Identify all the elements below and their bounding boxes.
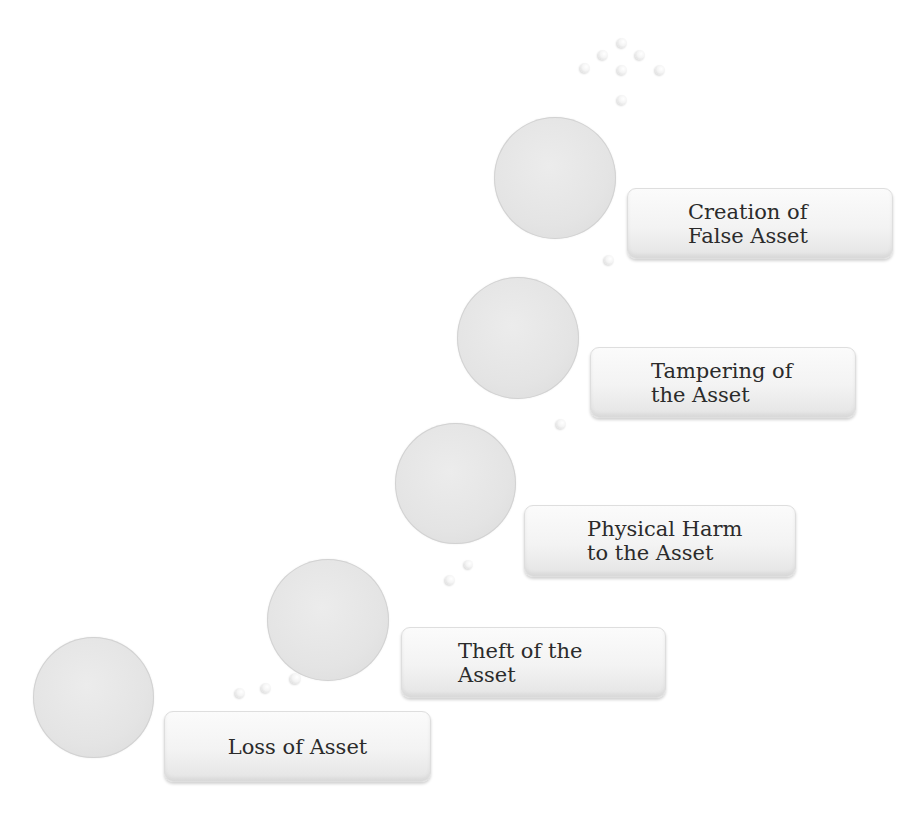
step-2-box: Theft of the Asset [401, 627, 666, 698]
step-5-circle [494, 117, 616, 239]
connector-bubble-3 [290, 673, 301, 684]
connector-bubble-4 [445, 575, 455, 585]
step-2-label: Theft of the Asset [458, 639, 582, 687]
step-1-box: Loss of Asset [164, 711, 431, 782]
connector-bubble-5 [464, 560, 473, 569]
cluster-bubble-5 [617, 65, 627, 75]
cluster-bubble-2 [598, 50, 608, 60]
connector-bubble-6 [556, 419, 566, 429]
step-1-label: Loss of Asset [228, 735, 368, 759]
connector-bubble-7 [604, 255, 614, 265]
connector-bubble-1 [235, 688, 245, 698]
step-3-circle [395, 423, 516, 544]
connector-bubble-2 [261, 683, 271, 693]
cluster-bubble-7 [617, 95, 627, 105]
step-5-box: Creation of False Asset [627, 188, 893, 259]
step-2-circle [267, 559, 389, 681]
cluster-bubble-6 [655, 65, 665, 75]
step-5-label: Creation of False Asset [688, 200, 808, 248]
step-4-box: Tampering of the Asset [590, 347, 856, 418]
step-3-label: Physical Harm to the Asset [587, 517, 742, 565]
cluster-bubble-4 [580, 63, 590, 73]
cluster-bubble-1 [617, 38, 627, 48]
step-1-circle [33, 637, 154, 758]
step-4-label: Tampering of the Asset [651, 359, 793, 407]
step-3-box: Physical Harm to the Asset [524, 505, 796, 577]
cluster-bubble-3 [635, 50, 645, 60]
step-4-circle [457, 277, 579, 399]
